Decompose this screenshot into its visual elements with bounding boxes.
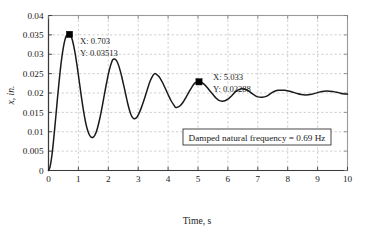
x-tick-label: 1: [76, 174, 81, 184]
callout-y-first-peak: Y: 0.03513: [80, 48, 118, 58]
data-point-marker: [196, 79, 202, 85]
x-tick-label: 5: [196, 174, 201, 184]
annotation-damped-frequency: Damped natural frequency = 0.69 Hz: [183, 129, 331, 145]
y-axis-title-group: x, in.: [5, 86, 16, 106]
y-tick-label: 0.01: [27, 127, 43, 137]
x-tick-label: 8: [285, 174, 290, 184]
y-tick-label: 0.03: [27, 49, 43, 59]
x-tick-label: 10: [343, 174, 353, 184]
callout-x-fourth-peak: X: 5.033: [213, 72, 243, 82]
x-tick-label: 3: [136, 174, 141, 184]
data-point-marker: [66, 31, 72, 37]
callout-y-fourth-peak: Y: 0.02288: [213, 84, 251, 94]
chart-background: [0, 0, 365, 238]
y-tick-label: 0.035: [23, 30, 44, 40]
callout-x-first-peak: X: 0.703: [80, 36, 110, 46]
x-tick-label: 2: [106, 174, 111, 184]
x-tick-label: 0: [46, 174, 51, 184]
x-tick-label: 7: [256, 174, 261, 184]
y-tick-label: 0.04: [27, 11, 43, 21]
y-tick-label: 0.02: [27, 88, 43, 98]
chart-figure: 012345678910 00.0050.010.0150.020.0250.0…: [0, 0, 365, 238]
x-tick-label: 6: [226, 174, 231, 184]
y-axis-title: x, in.: [5, 86, 16, 106]
x-tick-label: 4: [166, 174, 171, 184]
annotation-text: Damped natural frequency = 0.69 Hz: [189, 133, 326, 143]
y-tick-label: 0: [39, 166, 44, 176]
damped-oscillation-chart: 012345678910 00.0050.010.0150.020.0250.0…: [0, 0, 365, 238]
y-tick-label: 0.025: [23, 69, 44, 79]
y-tick-label: 0.005: [23, 146, 44, 156]
y-tick-label: 0.015: [23, 108, 44, 118]
x-tick-label: 9: [315, 174, 320, 184]
x-axis-title: Time, s: [183, 215, 212, 226]
